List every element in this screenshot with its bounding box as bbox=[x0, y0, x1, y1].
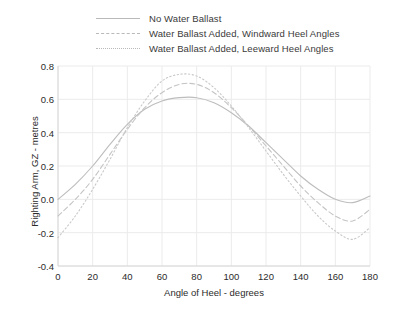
x-tick-label: 40 bbox=[122, 271, 133, 282]
y-tick-label: 0.8 bbox=[20, 61, 54, 72]
x-tick-label: 120 bbox=[258, 271, 274, 282]
x-tick-label: 60 bbox=[157, 271, 168, 282]
x-tick-label: 100 bbox=[223, 271, 239, 282]
x-axis-title: Angle of Heel - degrees bbox=[58, 287, 370, 298]
legend-swatch-solid-icon bbox=[96, 18, 140, 19]
series-line-1 bbox=[58, 83, 370, 221]
x-tick-label: 140 bbox=[293, 271, 309, 282]
legend-item[interactable]: Water Ballast Added, Leeward Heel Angles bbox=[96, 41, 386, 56]
series-line-0 bbox=[58, 97, 370, 203]
chart-legend: No Water Ballast Water Ballast Added, Wi… bbox=[96, 11, 386, 56]
legend-item[interactable]: Water Ballast Added, Windward Heel Angle… bbox=[96, 26, 386, 41]
x-tick-label: 160 bbox=[327, 271, 343, 282]
x-tick-label: 20 bbox=[87, 271, 98, 282]
plot-area bbox=[58, 66, 370, 266]
x-tick-label: 80 bbox=[191, 271, 202, 282]
x-tick-label: 0 bbox=[55, 271, 60, 282]
chart-figure: No Water Ballast Water Ballast Added, Wi… bbox=[0, 0, 397, 312]
y-axis-title: Righting Arm, GZ - metres bbox=[29, 72, 40, 272]
legend-swatch-dotted-icon bbox=[96, 48, 140, 49]
x-tick-label: 180 bbox=[362, 271, 378, 282]
legend-swatch-dashed-icon bbox=[96, 33, 140, 34]
legend-item[interactable]: No Water Ballast bbox=[96, 11, 386, 26]
plot-svg bbox=[58, 66, 370, 266]
x-axis-tick-labels: 020406080100120140160180 bbox=[58, 271, 370, 285]
legend-item-label: No Water Ballast bbox=[149, 11, 221, 26]
series-line-2 bbox=[58, 74, 370, 239]
legend-item-label: Water Ballast Added, Leeward Heel Angles bbox=[149, 41, 334, 56]
legend-item-label: Water Ballast Added, Windward Heel Angle… bbox=[149, 26, 339, 41]
